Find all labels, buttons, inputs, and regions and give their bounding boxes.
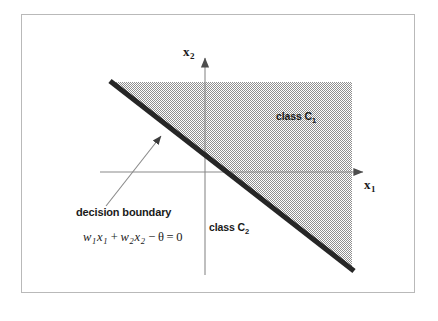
y-axis-label-text: x: [183, 44, 190, 59]
y-axis-label: x2: [183, 45, 195, 58]
class-c1-label-text: class C: [276, 110, 312, 122]
equation-rhs: 0: [176, 230, 182, 244]
x-axis-label: x1: [364, 178, 376, 191]
equation-equals-operator: =: [164, 230, 176, 244]
equation-w2: w: [120, 230, 129, 244]
equation-x1-subscript: 1: [103, 236, 108, 246]
decision-boundary-label: decision boundary: [76, 207, 171, 218]
equation-x1: x: [97, 230, 103, 244]
class-c2-label-subscript: 2: [245, 227, 249, 236]
x-axis-label-subscript: 1: [371, 184, 376, 194]
class-c2-label-text: class C: [209, 221, 245, 233]
x-axis-label-text: x: [364, 177, 371, 192]
equation-x2-subscript: 2: [140, 236, 145, 246]
class-c2-label: class C2: [209, 222, 249, 233]
y-axis-label-subscript: 2: [190, 51, 195, 61]
class-c1-label: class C1: [276, 111, 316, 122]
equation-w1: w: [83, 230, 92, 244]
equation-plus-operator: +: [108, 230, 120, 244]
equation-w2-subscript: 2: [129, 236, 134, 246]
boundary-equation: w1x1+w2x2−θ=0: [83, 231, 183, 244]
equation-minus-operator: −: [146, 230, 158, 244]
equation-w1-subscript: 1: [92, 236, 97, 246]
annotation-pointer-arrow: [106, 136, 161, 206]
class-c1-label-subscript: 1: [312, 116, 316, 125]
decision-boundary-plot: [0, 0, 438, 321]
